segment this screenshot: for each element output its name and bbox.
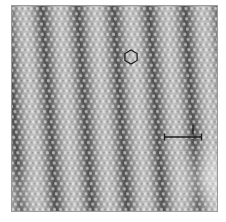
- stm-figure: [0, 0, 226, 222]
- figure-caption: [0, 215, 226, 222]
- stm-image: [11, 5, 218, 212]
